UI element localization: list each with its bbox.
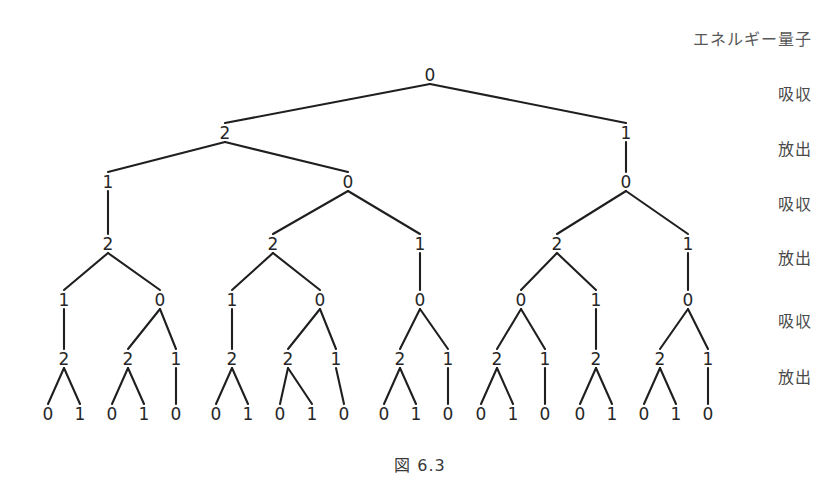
tree-node: 2 xyxy=(591,351,602,368)
tree-edge xyxy=(280,368,288,404)
tree-leaf-node: 1 xyxy=(139,406,150,423)
tree-edge xyxy=(497,368,513,404)
tree-edge xyxy=(232,253,273,290)
tree-edge xyxy=(288,309,320,349)
tree-edge xyxy=(225,84,430,123)
tree-node: 1 xyxy=(331,351,342,368)
tree-leaf-node: 0 xyxy=(211,406,222,423)
stage-label: 吸収 xyxy=(778,197,812,213)
tree-leaf-node: 1 xyxy=(508,406,519,423)
tree-edge xyxy=(232,368,248,404)
stage-label: 放出 xyxy=(778,142,812,158)
tree-edge xyxy=(273,253,320,290)
tree-edge xyxy=(64,253,108,290)
figure-caption: 図 6.3 xyxy=(0,452,840,476)
tree-leaf-node: 0 xyxy=(275,406,286,423)
tree-leaf-node: 0 xyxy=(443,406,454,423)
tree-node: 1 xyxy=(171,351,182,368)
tree-node: 2 xyxy=(59,351,70,368)
tree-leaf-node: 0 xyxy=(171,406,182,423)
tree-node: 1 xyxy=(540,351,551,368)
tree-edge xyxy=(420,309,448,349)
tree-edge xyxy=(112,368,128,404)
tree-edge xyxy=(320,309,336,349)
tree-leaf-node: 1 xyxy=(607,406,618,423)
tree-leaf-node: 1 xyxy=(307,406,318,423)
tree-edge xyxy=(644,368,660,404)
tree-leaf-node: 0 xyxy=(575,406,586,423)
tree-node: 2 xyxy=(220,125,231,142)
tree-edge xyxy=(430,84,626,123)
tree-node: 0 xyxy=(155,292,166,309)
tree-leaf-node: 0 xyxy=(379,406,390,423)
tree-edge xyxy=(580,368,596,404)
tree-node: 1 xyxy=(621,125,632,142)
tree-leaf-node: 0 xyxy=(476,406,487,423)
tree-edge xyxy=(348,191,420,234)
tree-edge xyxy=(216,368,232,404)
tree-edge xyxy=(497,309,521,349)
tree-edge xyxy=(557,191,626,234)
tree-edge xyxy=(400,368,416,404)
tree-edge xyxy=(225,142,348,172)
tree-edge xyxy=(521,253,557,290)
tree-leaf-node: 0 xyxy=(639,406,650,423)
tree-edge xyxy=(384,368,400,404)
tree-leaf-node: 0 xyxy=(43,406,54,423)
tree-edge xyxy=(660,368,676,404)
tree-edge xyxy=(273,191,348,234)
tree-node: 1 xyxy=(227,292,238,309)
tree-edge xyxy=(557,253,596,290)
tree-leaf-node: 1 xyxy=(411,406,422,423)
tree-node: 2 xyxy=(268,236,279,253)
tree-leaf-node: 0 xyxy=(107,406,118,423)
tree-edge xyxy=(108,253,160,290)
tree-edge xyxy=(128,309,160,349)
tree-node: 1 xyxy=(415,236,426,253)
edge-group xyxy=(48,84,708,404)
stage-label: 放出 xyxy=(778,251,812,267)
tree-node: 2 xyxy=(227,351,238,368)
tree-node: 0 xyxy=(425,67,436,84)
stage-label-header: エネルギー量子 xyxy=(693,32,812,48)
tree-leaf-node: 0 xyxy=(339,406,350,423)
tree-edge xyxy=(660,309,688,349)
tree-node: 2 xyxy=(103,236,114,253)
tree-edge xyxy=(160,309,176,349)
tree-edge xyxy=(626,191,688,234)
tree-node: 0 xyxy=(621,174,632,191)
tree-edge xyxy=(521,309,545,349)
tree-leaf-node: 0 xyxy=(540,406,551,423)
tree-edge xyxy=(108,142,225,172)
tree-edge xyxy=(481,368,497,404)
tree-leaf-node: 1 xyxy=(243,406,254,423)
stage-label: 吸収 xyxy=(778,314,812,330)
tree-node: 2 xyxy=(123,351,134,368)
tree-node: 2 xyxy=(492,351,503,368)
figure-canvas: 0211002212110100010221221212122101010010… xyxy=(0,0,840,490)
tree-leaf-node: 1 xyxy=(671,406,682,423)
tree-edge xyxy=(400,309,420,349)
stage-label: 放出 xyxy=(778,370,812,386)
tree-node: 2 xyxy=(283,351,294,368)
tree-leaf-node: 0 xyxy=(703,406,714,423)
tree-node: 1 xyxy=(59,292,70,309)
tree-node: 0 xyxy=(516,292,527,309)
tree-edge xyxy=(336,368,344,404)
tree-edge xyxy=(64,368,80,404)
tree-node: 2 xyxy=(655,351,666,368)
tree-node: 2 xyxy=(552,236,563,253)
tree-edge xyxy=(596,368,612,404)
tree-node: 0 xyxy=(415,292,426,309)
tree-edge xyxy=(288,368,312,404)
tree-node: 0 xyxy=(315,292,326,309)
stage-label: 吸収 xyxy=(778,87,812,103)
tree-node: 1 xyxy=(591,292,602,309)
tree-node: 1 xyxy=(103,174,114,191)
tree-edge xyxy=(688,309,708,349)
tree-node: 0 xyxy=(343,174,354,191)
tree-node: 1 xyxy=(443,351,454,368)
tree-leaf-node: 1 xyxy=(75,406,86,423)
tree-node: 1 xyxy=(683,236,694,253)
tree-node: 2 xyxy=(395,351,406,368)
